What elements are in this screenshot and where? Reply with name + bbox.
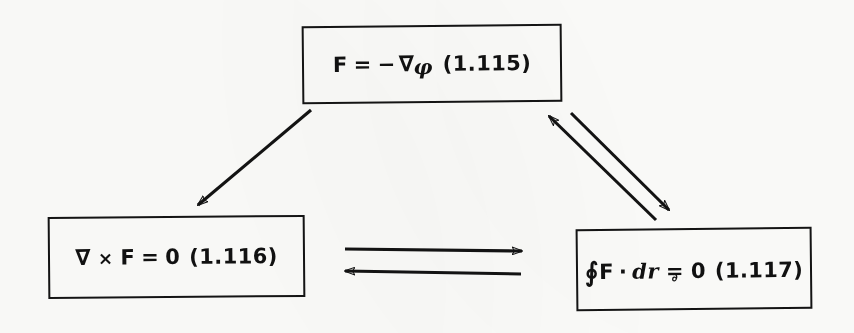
equals-smudge-mark: ∂ (672, 272, 679, 283)
equation-text-gradient-relation: F=−∇φ(1.115) (333, 52, 532, 76)
contour-integral-icon: ∮ (585, 257, 600, 287)
arrow-top-to-curl (198, 110, 311, 205)
vector-F-symbol: F (599, 260, 614, 284)
zero-symbol: 0 (691, 259, 706, 283)
arrow-circ-to-top (549, 116, 656, 220)
nabla-symbol: ∇ (75, 245, 91, 270)
phi-symbol: φ (413, 54, 433, 79)
zero-symbol: 0 (165, 245, 180, 269)
equals-symbol: = (353, 53, 371, 77)
equation-box-curl-relation: ∇×F=0(1.116) (48, 215, 306, 299)
vector-F-symbol: F (333, 53, 348, 77)
equation-tag: (1.116) (189, 244, 278, 269)
dot-product-symbol: · (619, 260, 628, 284)
equals-symbol: = (141, 245, 159, 269)
equation-text-circulation-relation: ∮F·dr=∂0(1.117) (585, 255, 804, 283)
cross-product-symbol: × (98, 248, 114, 269)
equation-box-gradient-relation: F=−∇φ(1.115) (302, 24, 563, 104)
arrow-curl-to-circ (345, 249, 522, 251)
minus-symbol: − (377, 52, 395, 76)
vector-F-symbol: F (120, 245, 135, 269)
arrow-top-to-circ (571, 113, 669, 210)
equation-tag: (1.115) (443, 51, 532, 76)
arrow-circ-to-curl (345, 271, 521, 274)
equals-symbol-group: =∂ (666, 261, 684, 282)
differential-dr-symbol: dr (632, 258, 659, 283)
equation-box-circulation-relation: ∮F·dr=∂0(1.117) (576, 227, 813, 311)
diagram-canvas: F=−∇φ(1.115) ∇×F=0(1.116) ∮F·dr=∂0(1.117… (0, 0, 854, 333)
equation-tag: (1.117) (715, 258, 804, 283)
equation-text-curl-relation: ∇×F=0(1.116) (75, 245, 278, 269)
